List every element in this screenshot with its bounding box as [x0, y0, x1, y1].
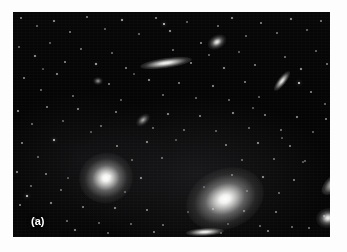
figure-panel: (a): [0, 0, 347, 252]
astronomical-image-plate: (a): [13, 12, 330, 237]
panel-label: (a): [31, 216, 44, 227]
sky-grain-texture: [13, 12, 330, 237]
